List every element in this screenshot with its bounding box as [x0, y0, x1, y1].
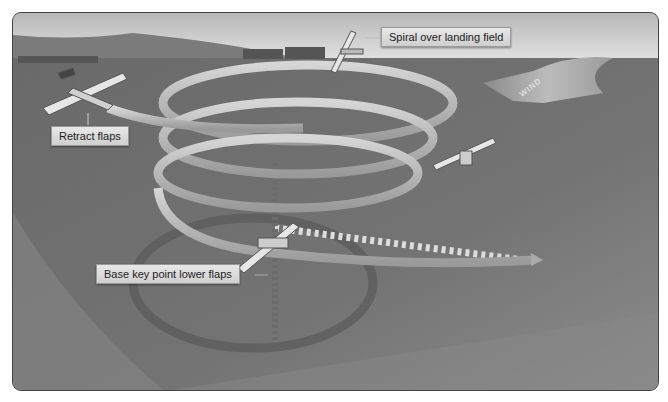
callout-retract-flaps: Retract flaps	[51, 126, 129, 146]
tree-line	[285, 47, 325, 59]
callout-base-key-point: Base key point lower flaps	[96, 264, 240, 284]
tree-line	[243, 49, 283, 59]
diagram-frame: WIND Spiral over landing field Retract f…	[12, 12, 659, 391]
tree-line	[18, 56, 98, 63]
callout-spiral-over-landing-field: Spiral over landing field	[381, 27, 511, 47]
spiral-descent-illustration	[13, 13, 658, 390]
